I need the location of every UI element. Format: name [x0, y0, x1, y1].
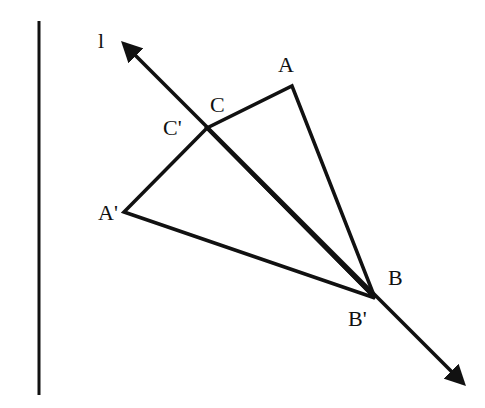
triangle-a-prime-b-prime-c-prime — [124, 128, 375, 298]
label-c-prime: C' — [163, 115, 182, 140]
line-label: l — [98, 28, 104, 53]
label-a-prime: A' — [98, 200, 118, 225]
label-a: A — [278, 52, 294, 77]
label-c: C — [210, 92, 225, 117]
label-b: B — [388, 265, 403, 290]
triangle-abc — [207, 86, 375, 298]
reflection-diagram: l A C C' A' B B' — [0, 0, 485, 408]
label-b-prime: B' — [348, 306, 367, 331]
diagram-canvas: l A C C' A' B B' — [0, 0, 485, 408]
